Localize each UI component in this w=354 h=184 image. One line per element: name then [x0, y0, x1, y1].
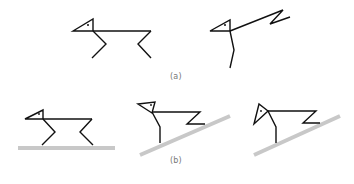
eye-dot: [38, 113, 40, 115]
panel-a-figure-1: [73, 19, 151, 58]
front-leg: [42, 119, 55, 145]
panel-b-figure-3: [254, 104, 340, 155]
panel-a-label: (a): [170, 72, 182, 81]
back-leg: [138, 31, 151, 58]
back-leg: [80, 119, 93, 145]
head-triangle: [25, 110, 43, 119]
head-triangle: [210, 20, 230, 31]
panel-b-figure-2: [138, 102, 230, 155]
head-triangle: [73, 19, 93, 31]
eye-dot: [87, 24, 89, 26]
eye-dot: [260, 110, 262, 112]
leg: [230, 31, 234, 68]
panel-b-figure-1: [18, 110, 115, 148]
sloped-ground: [140, 116, 230, 155]
front-leg: [92, 31, 106, 58]
raised-body-zigzag: [230, 10, 290, 31]
eye-dot: [224, 24, 226, 26]
sloped-ground: [254, 116, 340, 155]
body-zigzag: [268, 111, 320, 123]
head-triangle-tilted: [254, 104, 268, 124]
eye-dot: [150, 104, 152, 106]
panel-b-label: (b): [170, 156, 182, 165]
leg: [268, 111, 276, 143]
panel-a-figure-2: [210, 10, 290, 68]
leg: [152, 112, 160, 143]
body-zigzag: [152, 112, 205, 124]
